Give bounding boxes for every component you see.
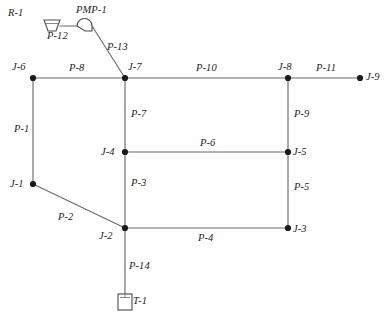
pump-symbol-PMP-1[interactable]	[77, 19, 92, 31]
node-label-J-1: J-1	[10, 179, 24, 190]
node-J-3[interactable]	[285, 225, 291, 231]
node-label-J-2: J-2	[99, 231, 113, 242]
node-J-8[interactable]	[285, 75, 291, 81]
pipe-label-P-10: P-10	[196, 63, 217, 74]
node-J-9[interactable]	[357, 75, 363, 81]
pipe-label-P-2: P-2	[58, 212, 73, 223]
node-J-5[interactable]	[285, 149, 291, 155]
pipe-label-P-9: P-9	[294, 109, 309, 120]
pipe-P-2[interactable]	[33, 184, 125, 228]
pipe-label-P-6: P-6	[200, 138, 215, 149]
pipe-label-P-14: P-14	[129, 261, 150, 272]
node-label-J-7: J-7	[128, 62, 142, 73]
tank-symbol-T-1[interactable]	[118, 294, 132, 310]
junction-nodes	[30, 75, 363, 231]
node-label-J-3: J-3	[293, 224, 307, 235]
pipe-label-P-12: P-12	[47, 31, 68, 42]
node-J-1[interactable]	[30, 181, 36, 187]
node-label-R-1: R-1	[8, 8, 23, 19]
node-J-7[interactable]	[122, 75, 128, 81]
pipe-label-P-8: P-8	[69, 63, 84, 74]
node-label-PMP-1: PMP-1	[76, 5, 107, 16]
pipe-label-P-7: P-7	[131, 109, 146, 120]
pipe-label-P-13: P-13	[107, 42, 128, 53]
network-diagram-canvas: R-1 PMP-1 J-6 J-7 J-8 J-9 J-1 J-4 J-5 J-…	[0, 0, 389, 325]
node-label-J-8: J-8	[278, 62, 292, 73]
pipe-label-P-3: P-3	[131, 178, 146, 189]
node-label-T-1: T-1	[133, 296, 147, 307]
node-label-J-4: J-4	[101, 147, 115, 158]
pipe-label-P-1: P-1	[14, 124, 29, 135]
node-J-4[interactable]	[122, 149, 128, 155]
node-label-J-6: J-6	[12, 62, 26, 73]
network-graphics	[0, 0, 389, 325]
node-label-J-9: J-9	[366, 72, 380, 83]
pipe-label-P-11: P-11	[316, 63, 336, 74]
pipe-label-P-4: P-4	[198, 233, 213, 244]
node-label-J-5: J-5	[293, 147, 307, 158]
pipe-label-P-5: P-5	[294, 182, 309, 193]
node-J-6[interactable]	[30, 75, 36, 81]
node-J-2[interactable]	[122, 225, 128, 231]
